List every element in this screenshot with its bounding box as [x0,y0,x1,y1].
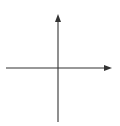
coordinate-plane-chart [0,0,120,126]
y-axis-arrow-icon [55,14,61,22]
x-axis-arrow-icon [104,65,112,71]
